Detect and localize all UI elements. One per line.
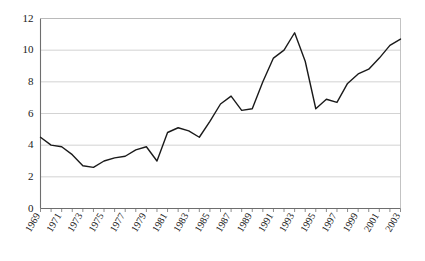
x-tick-label-1983: 1983 xyxy=(171,211,191,234)
x-tick-label-1991: 1991 xyxy=(256,211,276,234)
chart-canvas: 024681012 196919711973197519771979198119… xyxy=(0,0,425,261)
data-series-group xyxy=(41,33,401,168)
x-tick-label-1979: 1979 xyxy=(129,211,149,234)
y-tick-label-4: 4 xyxy=(28,138,34,150)
x-tick-label-1989: 1989 xyxy=(234,211,254,234)
y-tick-label-12: 12 xyxy=(23,12,34,24)
x-tick-label-1999: 1999 xyxy=(340,211,360,234)
x-tick-label-1977: 1977 xyxy=(107,211,127,234)
y-tick-label-6: 6 xyxy=(28,107,34,119)
x-axis-tick-labels: 1969197119731975197719791981198319851987… xyxy=(23,211,403,234)
x-tick-label-1995: 1995 xyxy=(298,211,318,234)
x-tick-label-1973: 1973 xyxy=(65,211,85,234)
x-tick-label-1971: 1971 xyxy=(44,211,64,234)
x-tick-label-1969: 1969 xyxy=(23,211,43,234)
x-tick-label-1981: 1981 xyxy=(150,211,170,234)
x-tick-label-1985: 1985 xyxy=(192,211,212,234)
x-tick-label-2003: 2003 xyxy=(383,211,403,234)
x-tick-label-1975: 1975 xyxy=(86,211,106,234)
y-tick-label-8: 8 xyxy=(28,75,34,87)
x-tick-label-1997: 1997 xyxy=(319,211,339,234)
y-axis-tick-labels: 024681012 xyxy=(23,12,35,214)
x-tick-label-2001: 2001 xyxy=(362,211,382,234)
x-tick-label-1987: 1987 xyxy=(213,211,233,234)
data-line-series-1 xyxy=(41,33,401,168)
x-tick-label-1993: 1993 xyxy=(277,211,297,234)
line-chart: 024681012 196919711973197519771979198119… xyxy=(0,0,425,261)
gridlines-group xyxy=(41,19,401,177)
y-tick-label-10: 10 xyxy=(23,43,35,55)
y-tick-label-2: 2 xyxy=(28,170,34,182)
